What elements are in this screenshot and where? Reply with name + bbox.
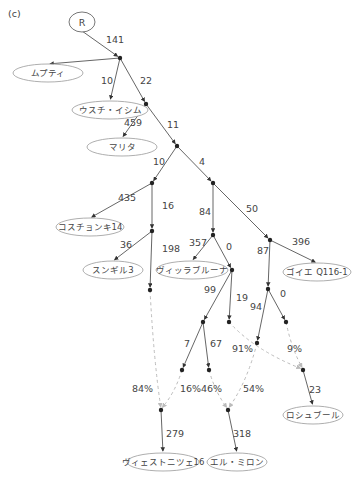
edge-drift-label: 67	[210, 338, 222, 349]
tree-edge	[258, 289, 268, 340]
leaf-label: ムプティ	[31, 68, 65, 78]
edge-drift-label: 22	[140, 75, 152, 86]
edge-drift-label: 357	[189, 237, 207, 248]
leaf-label: エル・ミロン	[210, 457, 264, 467]
leaf-label: コスチョンキ14	[58, 222, 123, 232]
edge-drift-label: 10	[153, 156, 165, 167]
internal-node-dot	[150, 181, 154, 185]
internal-node-dot	[268, 238, 272, 242]
tree-edge	[229, 270, 232, 319]
tree-edge	[50, 58, 120, 64]
internal-node-dot	[159, 408, 163, 412]
internal-node-dot	[211, 181, 215, 185]
edge-drift-label: 84	[199, 206, 211, 217]
admixture-percent-label: 84%	[132, 383, 153, 394]
leaf-node: ヴィェストニツェ16	[122, 453, 205, 471]
leaf-node: コスチョンキ14	[56, 218, 124, 236]
leaf-label: スンギル3	[92, 265, 133, 275]
tree-edge	[203, 322, 209, 367]
internal-node-dot	[211, 233, 215, 237]
internal-node-dot	[230, 268, 234, 272]
edge-drift-label: 23	[309, 384, 321, 395]
root-node: R	[69, 12, 95, 32]
edge-drift-label: 7	[184, 338, 190, 349]
admixture-graph: (c) ムプティウスチ・イシムマリタコスチョンキ14スンギル3ヴィッラブルーナゴ…	[0, 0, 361, 484]
tree-edge	[161, 410, 163, 451]
edge-drift-label: 279	[166, 428, 184, 439]
leaf-label: ロシュブール	[286, 410, 340, 420]
internal-node-dot	[301, 368, 305, 372]
edge-drift-label: 198	[162, 243, 180, 254]
admixture-percent-label: 16%	[180, 383, 201, 394]
edge-drift-label: 94	[250, 301, 262, 312]
leaf-label: マリタ	[109, 142, 136, 152]
admixture-percent-label: 54%	[243, 383, 264, 394]
leaf-node: エル・ミロン	[207, 453, 267, 471]
edge-drift-label: 99	[204, 284, 216, 295]
internal-node-dot	[148, 288, 152, 292]
edge-drift-label: 50	[246, 203, 258, 214]
leaf-node: マリタ	[87, 138, 157, 156]
internal-node-dot	[226, 408, 230, 412]
panel-label: (c)	[8, 8, 21, 19]
edge-drift-label: 4	[199, 156, 205, 167]
internal-node-dot	[150, 229, 154, 233]
internal-node-dot	[266, 287, 270, 291]
leaf-label: ウスチ・イシム	[79, 105, 142, 115]
leaf-nodes: ムプティウスチ・イシムマリタコスチョンキ14スンギル3ヴィッラブルーナゴイエ Q…	[13, 64, 351, 471]
internal-node-dot	[207, 368, 211, 372]
internal-node-dot	[144, 102, 148, 106]
tree-edge	[177, 146, 211, 181]
leaf-node: ヴィッラブルーナ	[156, 261, 228, 279]
tree-edge	[150, 231, 152, 287]
edge-drift-label: 0	[226, 241, 232, 252]
edge-drift-label: 36	[120, 239, 132, 250]
leaf-label: ヴィェストニツェ16	[122, 457, 205, 467]
leaf-node: ゴイエ Q116-1	[283, 263, 351, 281]
edge-drift-label: 435	[118, 192, 136, 203]
edge-drift-label: 141	[106, 34, 124, 45]
leaf-node: ロシュブール	[283, 406, 343, 424]
edge-drift-label: 11	[167, 119, 179, 130]
edge-drift-label: 19	[236, 292, 248, 303]
edge-drift-label: 16	[162, 200, 174, 211]
edge-drift-label: 318	[233, 428, 251, 439]
internal-node-dot	[255, 341, 259, 345]
internal-node-dot	[175, 144, 179, 148]
edge-drift-label: 396	[292, 236, 310, 247]
internal-node-dot	[284, 320, 288, 324]
admixture-percent-label: 46%	[201, 383, 222, 394]
admixture-percent-label: 91%	[232, 343, 253, 354]
admixture-percent-label: 9%	[287, 343, 302, 354]
edge-drift-label: 0	[280, 288, 286, 299]
internal-node-dot	[118, 56, 122, 60]
leaf-node: スンギル3	[83, 261, 143, 279]
edge-drift-label: 87	[257, 245, 269, 256]
edge-drift-label: 459	[124, 117, 142, 128]
leaf-node: ムプティ	[13, 64, 83, 82]
leaf-label: ゴイエ Q116-1	[286, 267, 347, 277]
internal-node-dot	[201, 320, 205, 324]
internal-node-dot	[180, 368, 184, 372]
leaf-label: ヴィッラブルーナ	[156, 265, 228, 275]
root-label: R	[79, 17, 86, 28]
tree-edge	[213, 183, 268, 238]
internal-node-dot	[227, 320, 231, 324]
edge-drift-label: 10	[101, 75, 113, 86]
admixture-edges	[150, 290, 302, 407]
